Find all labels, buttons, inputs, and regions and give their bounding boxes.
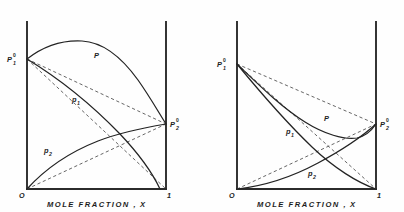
- label-curve-total: P: [94, 51, 99, 60]
- label-curve-total: P: [324, 114, 329, 123]
- label-curve-partial-1: p 1: [285, 127, 294, 138]
- label-P2-naught-sub: 2: [385, 125, 389, 131]
- ideal-line-p2: [27, 124, 166, 189]
- x-axis-title-text: MOLE FRACTION ,: [47, 200, 137, 209]
- label-P1-naught: P 1 0: [217, 57, 226, 71]
- label-P1-naught-sup: 0: [223, 57, 226, 63]
- x-axis-title: MOLE FRACTION , X: [257, 200, 357, 209]
- panel-negative-deviation: P 1 0 P 2 0 P p 1 p 2 O: [202, 0, 404, 212]
- curve-total-pressure: [237, 64, 376, 138]
- label-P2-naught: P 2 0: [170, 117, 179, 131]
- x-axis-title-text: MOLE FRACTION ,: [257, 200, 347, 209]
- panel-positive-deviation: P 1 0 P 2 0 P p 1 p 2 O: [0, 0, 202, 212]
- label-P1-naught-sub: 1: [223, 65, 226, 71]
- plot-positive-deviation: P 1 0 P 2 0 P p 1 p 2 O: [0, 0, 202, 212]
- x-axis-title-symbol: X: [349, 200, 357, 209]
- ideal-line-p1: [237, 64, 376, 189]
- label-curve-partial-2-sub: 2: [312, 174, 316, 180]
- x-tick-one: 1: [377, 191, 381, 200]
- ideal-line-total: [237, 64, 376, 124]
- figure-root: P 1 0 P 2 0 P p 1 p 2 O: [0, 0, 404, 212]
- label-curve-partial-1-sub: 1: [291, 132, 294, 138]
- x-axis-title-symbol: X: [139, 200, 147, 209]
- label-curve-partial-1-sub: 1: [77, 100, 80, 106]
- x-tick-one: 1: [167, 191, 171, 200]
- label-P2-naught-sup: 0: [386, 117, 389, 123]
- label-P2-naught-base: P: [170, 120, 175, 129]
- plot-negative-deviation: P 1 0 P 2 0 P p 1 p 2 O: [202, 0, 404, 212]
- label-P2-naught-base: P: [380, 120, 385, 129]
- label-curve-partial-2: p 2: [43, 146, 52, 157]
- label-P2-naught-sub: 2: [175, 125, 179, 131]
- label-curve-partial-2-sub: 2: [48, 151, 52, 157]
- label-P2-naught-sup: 0: [176, 117, 179, 123]
- x-tick-origin: O: [19, 191, 25, 200]
- label-curve-partial-2: p 2: [307, 169, 316, 180]
- label-P1-naught-sup: 0: [13, 52, 16, 58]
- label-P1-naught-base: P: [7, 55, 12, 64]
- label-P1-naught-sub: 1: [13, 60, 16, 66]
- x-tick-origin: O: [229, 191, 235, 200]
- label-P1-naught: P 1 0: [7, 52, 16, 66]
- label-P1-naught-base: P: [217, 60, 222, 69]
- x-axis-title: MOLE FRACTION , X: [47, 200, 147, 209]
- label-P2-naught: P 2 0: [380, 117, 389, 131]
